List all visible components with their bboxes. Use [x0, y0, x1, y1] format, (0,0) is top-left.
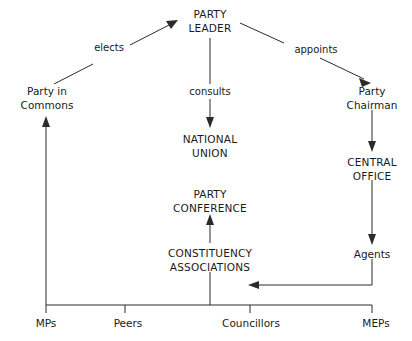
- edge-chairman-to-central-office: [368, 110, 376, 152]
- node-agents: Agents: [354, 248, 391, 260]
- axis-label-peers: Peers: [114, 317, 143, 329]
- edge-elects-segment-upper: [130, 24, 171, 45]
- edge-constituency-conference-arrowhead: [206, 214, 214, 225]
- node-central-office: CENTRAL OFFICE: [347, 156, 397, 182]
- diagram-canvas: PARTY LEADER Party in Commons Party Chai…: [0, 0, 412, 341]
- edge-label-elects: elects: [94, 42, 124, 53]
- edge-label-appoints: appoints: [294, 44, 337, 55]
- node-party-leader-line2: LEADER: [189, 22, 232, 34]
- node-party-conference: PARTY CONFERENCE: [173, 188, 247, 214]
- node-party-in-commons-line1: Party in: [27, 85, 67, 97]
- edge-agents-constituency-path: [255, 259, 372, 285]
- node-constituency-associations-line2: ASSOCIATIONS: [170, 261, 250, 273]
- node-constituency-associations: CONSTITUENCY ASSOCIATIONS: [168, 247, 253, 273]
- edge-constituency-to-conference: [206, 214, 214, 243]
- node-party-in-commons: Party in Commons: [21, 85, 74, 111]
- edge-central-office-to-agents: [368, 180, 376, 245]
- edge-axis-commons-arrowhead: [42, 116, 50, 127]
- edge-appoints: [240, 23, 371, 87]
- node-party-conference-line2: CONFERENCE: [173, 202, 247, 214]
- axis-label-meps: MEPs: [362, 317, 389, 329]
- edge-elects-segment-lower: [54, 64, 93, 84]
- edge-consults: [206, 38, 214, 128]
- node-party-chairman-line2: Chairman: [347, 99, 398, 111]
- edge-central-agents-arrowhead: [368, 234, 376, 245]
- axis-label-mps: MPs: [36, 317, 57, 329]
- node-national-union: NATIONAL UNION: [183, 133, 238, 159]
- party-structure-diagram: PARTY LEADER Party in Commons Party Chai…: [0, 0, 412, 341]
- node-party-in-commons-line2: Commons: [21, 99, 74, 111]
- node-party-chairman-line1: Party: [359, 85, 386, 97]
- node-national-union-line1: NATIONAL: [183, 133, 238, 145]
- edge-elects-arrowhead: [166, 20, 178, 29]
- edge-label-consults: consults: [189, 86, 230, 97]
- edge-consults-arrowhead: [206, 117, 214, 128]
- edge-appoints-segment-lower: [320, 58, 364, 79]
- edge-agents-to-constituency: [248, 259, 372, 289]
- node-national-union-line2: UNION: [192, 147, 228, 159]
- membership-axis: [46, 305, 372, 313]
- node-party-leader: PARTY LEADER: [189, 8, 232, 34]
- edge-appoints-segment-upper: [240, 23, 284, 43]
- edge-agents-constituency-arrowhead: [248, 281, 259, 289]
- axis-label-councillors: Councillors: [222, 317, 280, 329]
- node-party-chairman: Party Chairman: [347, 85, 398, 111]
- node-central-office-line2: OFFICE: [353, 170, 392, 182]
- edge-chairman-central-arrowhead: [368, 141, 376, 152]
- edge-axis-to-party-in-commons: [42, 116, 50, 305]
- node-central-office-line1: CENTRAL: [347, 156, 397, 168]
- node-party-conference-line1: PARTY: [193, 188, 227, 200]
- node-constituency-associations-line1: CONSTITUENCY: [168, 247, 253, 259]
- node-party-leader-line1: PARTY: [193, 8, 227, 20]
